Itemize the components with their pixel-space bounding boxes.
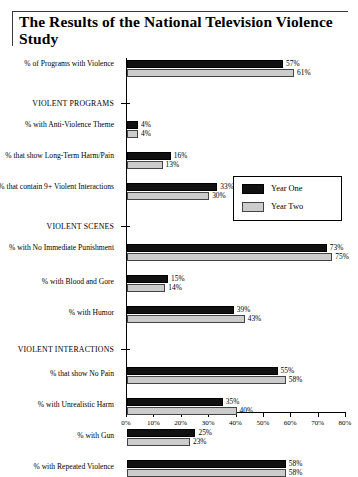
bar-value-year-one: 33%	[220, 183, 234, 191]
bar-value-year-one: 73%	[330, 244, 344, 252]
legend-swatch-icon	[242, 184, 264, 194]
bar-year-one	[127, 121, 138, 129]
bar-value-year-one: 16%	[174, 152, 188, 160]
section-tick-mark	[121, 226, 130, 227]
bar-year-two	[127, 130, 138, 138]
bar-year-one	[127, 244, 327, 252]
legend-label: Year Two	[271, 201, 303, 213]
bar-year-one	[127, 275, 168, 283]
bar-value-year-two: 30%	[212, 192, 226, 200]
x-tick-label: 0%	[111, 419, 141, 427]
bar-year-one	[127, 398, 223, 406]
x-tick-mark	[290, 412, 291, 417]
bar-row-label: % that show No Pain	[0, 370, 114, 379]
bar-row-label: % that contain 9+ Violent Interactions	[0, 183, 114, 192]
bar-value-year-one: 25%	[198, 429, 212, 437]
bar-year-two	[127, 161, 163, 169]
bar-value-year-two: 58%	[289, 469, 303, 477]
bar-value-year-one: 4%	[141, 121, 151, 129]
bar-value-year-two: 4%	[141, 130, 151, 138]
bar-value-year-two: 13%	[166, 161, 180, 169]
bar-year-two	[127, 407, 237, 415]
bar-value-year-two: 75%	[335, 253, 349, 261]
bar-value-year-two: 58%	[289, 376, 303, 384]
bar-value-year-two: 23%	[193, 438, 207, 446]
chart-legend: Year One Year Two	[233, 176, 342, 221]
title-top-rule	[12, 11, 348, 12]
bar-year-two	[127, 469, 286, 477]
x-tick-mark	[263, 412, 264, 417]
bar-year-one	[127, 460, 286, 468]
chart-plot-area: 0%10%20%30%40%50%60%70%80% % of Programs…	[0, 58, 358, 438]
bar-year-two	[127, 438, 190, 446]
bar-value-year-one: 55%	[281, 367, 295, 375]
x-tick-label: 50%	[248, 419, 278, 427]
bar-year-one	[127, 152, 171, 160]
x-tick-mark	[345, 412, 346, 417]
bar-row-label: % with Repeated Violence	[0, 463, 114, 472]
bar-value-year-two: 14%	[168, 284, 182, 292]
section-header-label: VIOLENT SCENES	[0, 222, 114, 231]
legend-label: Year One	[271, 183, 302, 195]
x-tick-mark	[318, 412, 319, 417]
x-tick-label: 80%	[330, 419, 358, 427]
legend-swatch-icon	[242, 202, 264, 212]
bar-row-label: % that show Long-Term Harm/Pain	[0, 152, 114, 161]
bar-value-year-one: 57%	[286, 60, 300, 68]
x-tick-label: 20%	[166, 419, 196, 427]
bar-row-label: % with Humor	[0, 309, 114, 318]
bar-year-one	[127, 367, 278, 375]
bar-year-two	[127, 284, 165, 292]
bar-year-one	[127, 306, 234, 314]
section-tick-mark	[121, 103, 130, 104]
x-tick-label: 60%	[275, 419, 305, 427]
section-header-label: VIOLENT INTERACTIONS	[0, 345, 114, 354]
bar-value-year-two: 43%	[248, 315, 262, 323]
title-left-rule	[12, 12, 13, 46]
section-tick-mark	[121, 349, 130, 350]
bar-value-year-two: 61%	[297, 69, 311, 77]
bar-value-year-two: 40%	[240, 407, 254, 415]
bar-value-year-one: 35%	[226, 398, 240, 406]
bar-year-two	[127, 192, 209, 200]
x-tick-label: 30%	[193, 419, 223, 427]
bar-row-label: % with No Immediate Punishment	[0, 244, 114, 253]
x-tick-label: 70%	[303, 419, 333, 427]
bar-year-one	[127, 429, 195, 437]
x-tick-label: 40%	[221, 419, 251, 427]
bar-year-two	[127, 315, 245, 323]
bar-row-label: % with Unrealistic Harm	[0, 401, 114, 410]
page-title: The Results of the National Television V…	[19, 13, 349, 47]
bar-year-two	[127, 376, 286, 384]
bar-value-year-one: 58%	[289, 460, 303, 468]
bar-row-label: % with Blood and Gore	[0, 278, 114, 287]
y-axis-line	[126, 58, 127, 412]
bar-value-year-one: 15%	[171, 275, 185, 283]
bar-row-label: % with Anti-Violence Theme	[0, 121, 114, 130]
bar-year-one	[127, 183, 217, 191]
x-tick-label: 10%	[138, 419, 168, 427]
section-header-label: VIOLENT PROGRAMS	[0, 99, 114, 108]
bar-value-year-one: 39%	[237, 306, 251, 314]
bar-year-one	[127, 60, 283, 68]
bar-year-two	[127, 253, 332, 261]
bar-year-two	[127, 69, 294, 77]
bar-row-label: % with Gun	[0, 432, 114, 441]
bar-row-label: % of Programs with Violence	[0, 60, 114, 69]
